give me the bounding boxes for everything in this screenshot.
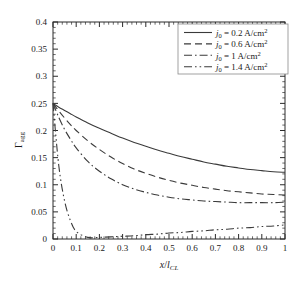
x-tick-label: 0.9 [256, 243, 268, 253]
legend-label-1: j0 = 0.6 A/cm2 [215, 38, 268, 50]
figure-container: 00.10.20.30.40.50.60.70.80.91 00.050.10.… [0, 0, 307, 281]
x-tick-label: 0.1 [71, 243, 82, 253]
y-tick-label: 0.35 [31, 44, 47, 54]
x-tick-label: 0.2 [94, 243, 105, 253]
y-tick-label: 0.25 [31, 99, 47, 109]
legend-label-3: j0 = 1.4 A/cm2 [215, 61, 268, 73]
x-tick-label: 0.5 [163, 243, 175, 253]
line-chart: 00.10.20.30.40.50.60.70.80.91 00.050.10.… [0, 0, 307, 281]
y-tick-label: 0.3 [36, 71, 48, 81]
x-tick-label: 0.4 [140, 243, 152, 253]
y-tick-label: 0.05 [31, 207, 47, 217]
x-tick-label: 0 [51, 243, 56, 253]
y-tick-label: 0.1 [36, 180, 47, 190]
y-tick-label: 0.15 [31, 153, 47, 163]
x-tick-label: 1 [283, 243, 288, 253]
x-tick-label: 0.3 [117, 243, 129, 253]
y-tick-label: 0 [43, 234, 48, 244]
x-tick-label: 0.7 [210, 243, 222, 253]
y-tick-label: 0.2 [36, 126, 47, 136]
legend: j0 = 0.2 A/cm2j0 = 0.6 A/cm2j0 = 1 A/cm2… [178, 24, 288, 74]
y-tick-label: 0.4 [36, 17, 48, 27]
x-tick-label: 0.6 [187, 243, 199, 253]
legend-label-0: j0 = 0.2 A/cm2 [215, 27, 268, 39]
legend-label-2: j0 = 1 A/cm2 [215, 50, 261, 62]
x-tick-label: 0.8 [233, 243, 245, 253]
